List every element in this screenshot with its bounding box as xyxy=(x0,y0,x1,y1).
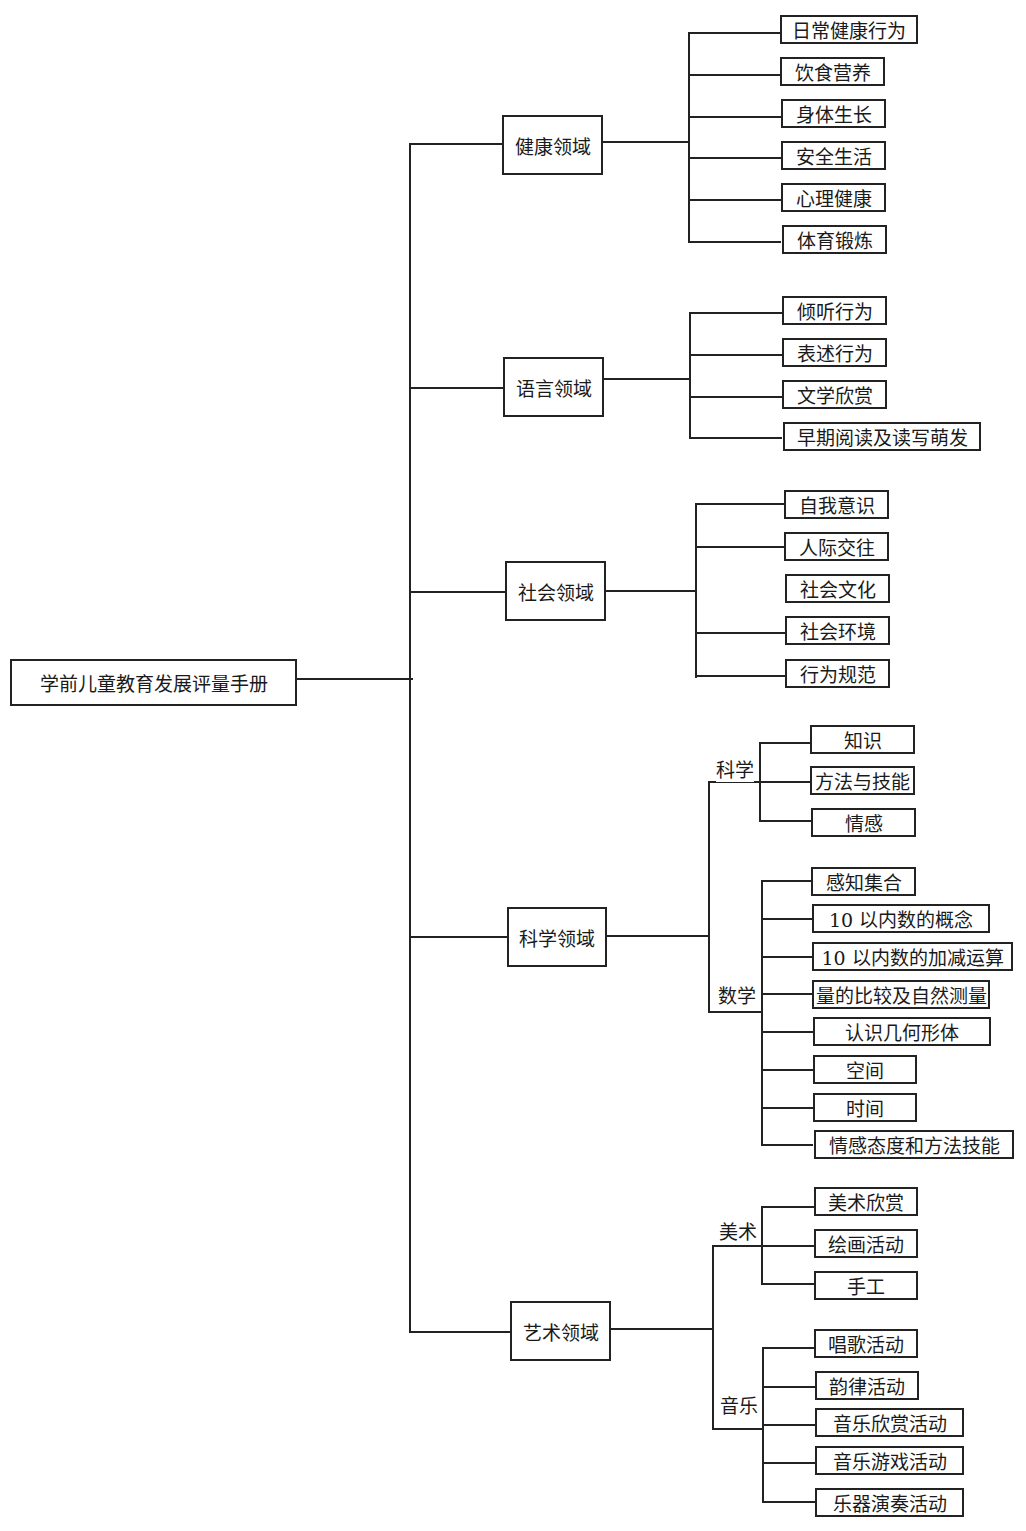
leaf-label: 安全生活 xyxy=(796,142,872,169)
leaf-label: 量的比较及自然测量 xyxy=(816,981,987,1008)
subgroup-label: 美术 xyxy=(719,1217,757,1244)
leaf-node: 唱歌活动 xyxy=(814,1329,918,1358)
leaf-label: 社会环境 xyxy=(800,617,876,644)
leaf-node: 方法与技能 xyxy=(810,766,915,795)
leaf-node: 乐器演奏活动 xyxy=(815,1488,964,1517)
leaf-node: 绘画活动 xyxy=(814,1229,918,1258)
connector xyxy=(611,1328,714,1330)
leaf-label: 情感态度和方法技能 xyxy=(829,1131,1000,1158)
leaf-node: 美术欣赏 xyxy=(814,1187,918,1216)
leaf-node: 早期阅读及读写萌发 xyxy=(783,422,981,451)
root-label: 学前儿童教育发展评量手册 xyxy=(40,669,268,696)
leaf-label: 音乐欣赏活动 xyxy=(833,1409,947,1436)
leaf-label: 10 以内数的概念 xyxy=(829,905,973,932)
branch-line xyxy=(688,32,690,242)
connector xyxy=(409,143,502,145)
connector xyxy=(761,1206,815,1208)
leaf-label: 心理健康 xyxy=(796,184,872,211)
subgroup-label: 科学 xyxy=(716,755,754,782)
leaf-label: 手工 xyxy=(847,1272,885,1299)
connector xyxy=(759,742,811,744)
branch-line xyxy=(695,503,697,678)
leaf-label: 10 以内数的加减运算 xyxy=(821,943,1003,970)
connector xyxy=(695,675,785,677)
leaf-node: 音乐游戏活动 xyxy=(815,1446,964,1475)
leaf-node: 自我意识 xyxy=(784,490,889,519)
leaf-node: 社会文化 xyxy=(785,574,890,603)
leaf-node: 饮食营养 xyxy=(780,57,885,86)
connector xyxy=(759,820,811,822)
connector xyxy=(688,199,781,201)
domain-label: 科学领域 xyxy=(519,924,595,951)
leaf-label: 空间 xyxy=(846,1056,884,1083)
leaf-label: 文学欣赏 xyxy=(797,381,873,408)
connector xyxy=(762,1501,815,1503)
leaf-label: 唱歌活动 xyxy=(828,1330,904,1357)
leaf-label: 日常健康行为 xyxy=(792,16,906,43)
leaf-node: 知识 xyxy=(810,725,915,754)
connector xyxy=(409,936,507,938)
connector xyxy=(689,396,782,398)
leaf-node: 10 以内数的概念 xyxy=(812,904,990,933)
connector xyxy=(712,1428,762,1430)
branch-line xyxy=(712,1245,714,1429)
domain-arts: 艺术领域 xyxy=(510,1301,611,1361)
leaf-label: 表述行为 xyxy=(797,339,873,366)
leaf-node: 身体生长 xyxy=(781,99,886,128)
leaf-label: 音乐游戏活动 xyxy=(833,1447,947,1474)
leaf-node: 音乐欣赏活动 xyxy=(815,1408,964,1437)
leaf-label: 倾听行为 xyxy=(797,297,873,324)
connector xyxy=(603,141,689,143)
branch-line xyxy=(708,781,710,1012)
connector xyxy=(761,1245,815,1247)
domain-label: 健康领域 xyxy=(515,132,591,159)
leaf-label: 身体生长 xyxy=(796,100,872,127)
leaf-node: 情感 xyxy=(811,808,916,837)
connector xyxy=(297,678,413,680)
connector xyxy=(762,1462,815,1464)
connector xyxy=(604,378,690,380)
connector xyxy=(695,632,785,634)
leaf-node: 行为规范 xyxy=(785,659,890,688)
connector xyxy=(607,935,710,937)
connector xyxy=(695,546,785,548)
leaf-node: 文学欣赏 xyxy=(782,380,887,409)
domain-label: 社会领域 xyxy=(518,578,594,605)
connector xyxy=(762,1386,815,1388)
leaf-node: 手工 xyxy=(814,1271,918,1300)
root-node: 学前儿童教育发展评量手册 xyxy=(10,659,297,706)
leaf-label: 认识几何形体 xyxy=(845,1018,959,1045)
leaf-node: 情感态度和方法技能 xyxy=(814,1130,1014,1159)
leaf-label: 韵律活动 xyxy=(829,1372,905,1399)
domain-label: 语言领域 xyxy=(516,374,592,401)
leaf-node: 空间 xyxy=(813,1055,917,1084)
leaf-node: 体育锻炼 xyxy=(782,225,887,254)
leaf-node: 感知集合 xyxy=(811,867,916,896)
leaf-label: 体育锻炼 xyxy=(797,226,873,253)
connector xyxy=(761,1144,813,1146)
connector xyxy=(688,241,781,243)
leaf-node: 心理健康 xyxy=(781,183,886,212)
leaf-label: 饮食营养 xyxy=(795,58,871,85)
leaf-node: 安全生活 xyxy=(781,141,886,170)
leaf-node: 日常健康行为 xyxy=(780,15,918,44)
connector xyxy=(712,1245,762,1247)
leaf-label: 时间 xyxy=(846,1094,884,1121)
leaf-node: 时间 xyxy=(813,1093,917,1122)
leaf-node: 韵律活动 xyxy=(815,1371,919,1400)
leaf-label: 感知集合 xyxy=(826,868,902,895)
domain-social: 社会领域 xyxy=(505,561,606,621)
branch-line xyxy=(689,312,691,438)
leaf-label: 人际交往 xyxy=(799,533,875,560)
domain-science: 科学领域 xyxy=(507,907,607,967)
connector xyxy=(761,1031,813,1033)
domain-label: 艺术领域 xyxy=(523,1318,599,1345)
subgroup-label: 数学 xyxy=(718,981,756,1008)
connector xyxy=(761,1283,815,1285)
domain-health: 健康领域 xyxy=(502,115,603,175)
leaf-label: 知识 xyxy=(844,726,882,753)
leaf-label: 社会文化 xyxy=(800,575,876,602)
connector xyxy=(761,993,813,995)
trunk-line xyxy=(409,143,411,1332)
connector xyxy=(688,157,781,159)
